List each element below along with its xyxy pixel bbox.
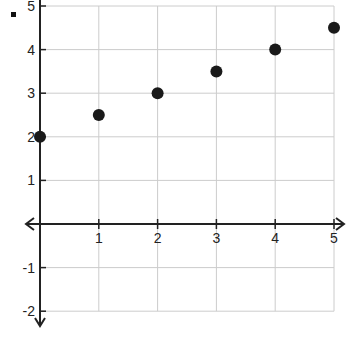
x-tick-label: 3 [213,230,221,246]
x-tick-label: 1 [95,230,103,246]
y-tick-label: 5 [27,0,35,14]
y-tick-label: 4 [27,42,35,58]
data-point [34,131,46,143]
data-points [34,22,340,143]
grid-lines [40,6,334,311]
y-tick-label: -2 [23,303,36,319]
coordinate-plane: 1234554321-1-2 [0,0,348,343]
y-tick-label: 1 [27,172,35,188]
x-tick-label: 2 [154,230,162,246]
x-tick-label: 4 [271,230,279,246]
data-point [328,22,340,34]
axes [26,0,344,326]
data-point [210,65,222,77]
y-tick-label: 3 [27,85,35,101]
tick-labels: 1234554321-1-2 [23,0,339,319]
data-point [152,87,164,99]
x-tick-label: 5 [330,230,338,246]
data-point [93,109,105,121]
y-tick-label: -1 [23,260,36,276]
data-point [269,44,281,56]
